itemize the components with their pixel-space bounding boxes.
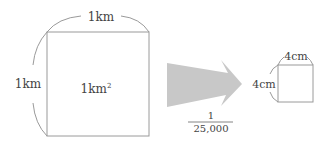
small-side-arc-bottom bbox=[270, 92, 278, 102]
scale-numerator: 1 bbox=[208, 110, 214, 121]
scale-arrow-group: 1 25,000 bbox=[167, 60, 242, 134]
large-square-top-label: 1km bbox=[88, 10, 115, 24]
small-square bbox=[278, 65, 313, 102]
small-side-arc-top bbox=[270, 65, 278, 74]
scale-diagram: 1km 1km 1km2 1 25,000 4cm 4cm bbox=[0, 0, 327, 146]
large-square-group: 1km 1km 1km2 bbox=[15, 10, 149, 136]
side-dimension-arc-bottom bbox=[33, 103, 47, 136]
small-top-arc-left bbox=[278, 57, 284, 65]
small-square-group: 4cm 4cm bbox=[252, 50, 313, 102]
large-square-area-label: 1km2 bbox=[81, 82, 112, 96]
top-dimension-arc-left bbox=[47, 16, 81, 32]
large-square-side-label: 1km bbox=[15, 77, 42, 91]
small-square-side-label: 4cm bbox=[252, 78, 276, 91]
small-square-top-label: 4cm bbox=[284, 50, 308, 63]
small-top-arc-right bbox=[307, 57, 313, 65]
side-dimension-arc-top bbox=[33, 32, 47, 65]
scale-denominator: 25,000 bbox=[194, 123, 229, 134]
top-dimension-arc-right bbox=[121, 16, 149, 32]
scale-arrow-icon bbox=[167, 60, 242, 107]
